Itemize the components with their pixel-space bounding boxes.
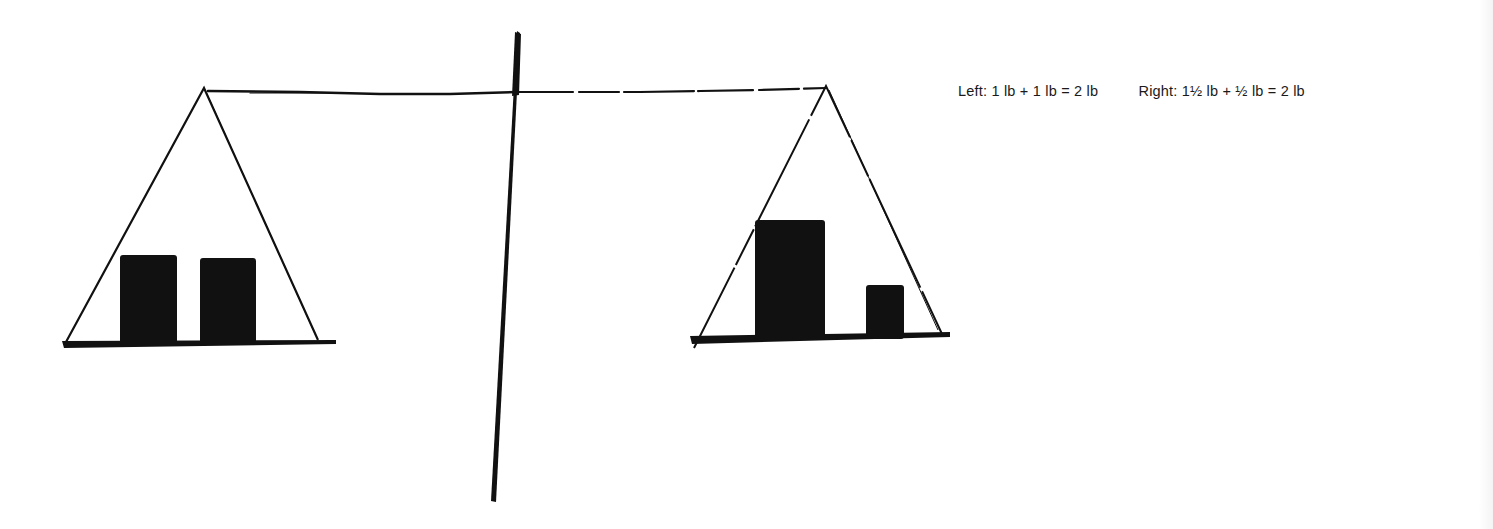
balance-scale-drawing [0,0,1493,529]
left-weight-1-lb-b [200,258,256,345]
weights-caption: Left: 1 lb + 1 lb = 2 lb Right: 1½ lb + … [958,83,1305,99]
left-pan-equation: Left: 1 lb + 1 lb = 2 lb [958,83,1098,99]
right-pan [690,86,950,348]
left-pan [62,88,336,348]
right-weight-0-5-lb [866,285,904,339]
left-pan-strings [66,88,318,342]
right-weight-1-5-lb [755,220,825,340]
left-pan-plate [62,340,336,348]
left-weight-1-lb-a [120,255,177,345]
scale-pole [491,31,521,502]
page-edge-shading [1479,0,1493,529]
right-pan-equation: Right: 1½ lb + ½ lb = 2 lb [1138,83,1304,99]
